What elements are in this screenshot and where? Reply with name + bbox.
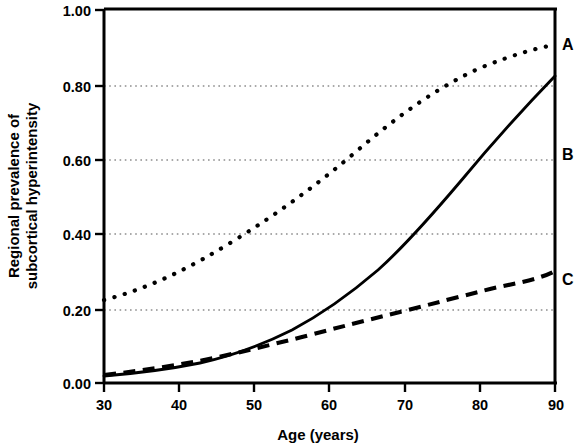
y-tick-label-000: 0.00 bbox=[63, 376, 91, 392]
y-axis-title-line2: subcortical hyperintensity bbox=[23, 102, 40, 289]
x-tick-label-30: 30 bbox=[96, 397, 112, 413]
x-tick-label-60: 60 bbox=[321, 397, 337, 413]
chart-figure: 1.00 0.80 0.60 0.40 0.20 0.00 30 40 50 6… bbox=[0, 0, 580, 448]
y-tick-label-040: 0.40 bbox=[63, 227, 91, 243]
x-tick-label-80: 80 bbox=[472, 397, 488, 413]
chart-svg: 1.00 0.80 0.60 0.40 0.20 0.00 30 40 50 6… bbox=[0, 0, 580, 448]
x-tick-label-40: 40 bbox=[171, 397, 187, 413]
series-label-b: B bbox=[562, 146, 574, 163]
x-axis-title: Age (years) bbox=[277, 426, 359, 443]
y-tick-label-100: 1.00 bbox=[63, 3, 91, 19]
y-tick-label-060: 0.60 bbox=[63, 153, 91, 169]
series-label-c: C bbox=[562, 271, 574, 288]
y-tick-label-020: 0.20 bbox=[63, 303, 91, 319]
x-tick-label-90: 90 bbox=[548, 397, 564, 413]
y-axis-title: Regional prevalence of subcortical hyper… bbox=[5, 102, 40, 289]
series-label-a: A bbox=[562, 36, 574, 53]
y-tick-label-080: 0.80 bbox=[63, 79, 91, 95]
x-tick-label-70: 70 bbox=[397, 397, 413, 413]
y-axis-title-line1: Regional prevalence of bbox=[5, 113, 22, 278]
x-tick-label-50: 50 bbox=[246, 397, 262, 413]
